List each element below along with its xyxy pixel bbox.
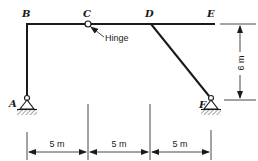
hinge-icon [85,21,91,27]
node-label-e: E [206,8,215,19]
node-label-d: D [144,8,154,19]
hinge-label: Hinge [105,33,129,43]
height-dimension: 6 m [220,24,256,100]
node-label-b: B [21,8,30,19]
span-1-label: 5 m [49,139,64,149]
node-label-a: A [8,98,17,109]
frame-diagram: Hinge B C D E A F 6 m 5 m [0,0,258,161]
pin-support-a-icon [17,96,37,116]
span-2-label: 5 m [111,139,126,149]
node-label-c: C [83,8,91,19]
member-df [151,24,209,96]
span-3-label: 5 m [172,139,187,149]
span-dimensions: 5 m 5 m 5 m [27,104,211,160]
height-dimension-label: 6 m [236,55,246,70]
hinge-leader [91,27,104,37]
